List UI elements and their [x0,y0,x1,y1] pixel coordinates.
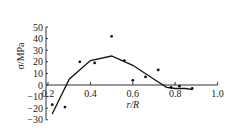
x-tick-label: 0.4 [84,88,97,99]
y-tick-label: 40 [33,33,43,44]
x-axis-label: r/R [126,99,139,110]
y-tick-label: 20 [33,56,43,67]
data-point [178,85,181,88]
data-point [131,79,134,82]
data-point [110,35,113,38]
chart: 50403020100−10−20−300.20.40.60.81.0r/Rσ/… [0,0,238,134]
y-tick-label: −20 [27,103,43,114]
x-tick-label: 0.6 [127,88,140,99]
plot-area [51,35,194,114]
y-tick-label: −10 [27,91,43,102]
data-point [157,69,160,72]
y-tick-label: 50 [33,22,43,33]
x-tick-label: 1.0 [211,88,224,99]
x-tick-label: 0.8 [169,88,182,99]
y-tick-label: 30 [33,45,43,56]
data-point [78,60,81,63]
data-point [144,75,147,78]
data-point [64,106,67,109]
y-tick-label: −30 [27,114,43,125]
axes: 50403020100−10−20−300.20.40.60.81.0r/Rσ/… [15,22,224,126]
data-point [93,62,96,65]
y-tick-label: 10 [33,68,43,79]
y-axis-label: σ/MPa [15,42,26,70]
x-tick-label: 0.2 [42,88,55,99]
data-point [51,103,54,106]
